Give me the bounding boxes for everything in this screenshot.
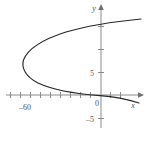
y-axis bbox=[98, 4, 104, 128]
x-axis-label: x bbox=[130, 101, 135, 110]
y-axis-arrow-icon bbox=[98, 4, 104, 10]
y-tick-label-5: 5 bbox=[90, 69, 94, 78]
origin-label: 0 bbox=[95, 99, 99, 108]
parabola-curve bbox=[23, 19, 141, 103]
y-axis-label: y bbox=[91, 4, 96, 13]
x-tick-label-neg60: –60 bbox=[18, 103, 31, 112]
parabola-plot: –60 0 5 –5 x y bbox=[0, 0, 147, 142]
x-axis-arrow-icon bbox=[138, 92, 144, 98]
chart-figure: –60 0 5 –5 x y bbox=[0, 0, 147, 142]
y-tick-label-neg5: –5 bbox=[85, 115, 94, 124]
